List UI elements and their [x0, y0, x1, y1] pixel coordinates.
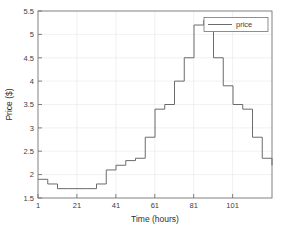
x-tick-label: 101: [226, 201, 239, 210]
x-tick-label: 1: [36, 201, 40, 210]
x-tick-label: 21: [73, 201, 81, 210]
legend-entry-price: price: [236, 20, 252, 29]
chart-figure: 1.5 2 2.5 3 3.5 4 4.5 5 5.5 1 21 41 61 8…: [0, 0, 286, 237]
y-tick-label: 1.5: [24, 194, 34, 203]
chart-legend[interactable]: price: [204, 18, 268, 32]
y-axis-title: Price ($): [4, 88, 14, 120]
y-tick-label: 5.5: [24, 7, 34, 16]
y-axis-ticks: [38, 11, 42, 198]
x-axis-ticks: [38, 194, 233, 198]
y-tick-label: 4: [30, 77, 34, 86]
x-tick-label: 41: [112, 201, 120, 210]
y-tick-label: 4.5: [24, 54, 34, 63]
x-tick-label: 81: [190, 201, 198, 210]
x-axis-tick-labels: 1 21 41 61 81 101: [36, 201, 239, 210]
y-axis-tick-labels: 1.5 2 2.5 3 3.5 4 4.5 5 5.5: [24, 7, 34, 203]
x-axis-title: Time (hours): [131, 214, 179, 224]
y-tick-label: 2.5: [24, 147, 34, 156]
price-stairs-chart: 1.5 2 2.5 3 3.5 4 4.5 5 5.5 1 21 41 61 8…: [0, 0, 286, 237]
y-tick-label: 3.5: [24, 100, 34, 109]
x-tick-label: 61: [151, 201, 159, 210]
y-tick-label: 2: [30, 170, 34, 179]
y-tick-label: 5: [30, 30, 34, 39]
y-tick-label: 3: [30, 124, 34, 133]
